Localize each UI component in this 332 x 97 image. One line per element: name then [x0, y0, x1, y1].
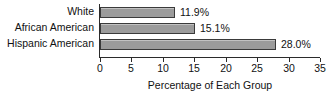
bar-value-hispanic-american: 28.0% [281, 38, 311, 50]
x-tick-label-5: 5 [119, 62, 143, 74]
category-axis-labels: White African American Hispanic American [0, 6, 97, 56]
category-label-african-american: African American [0, 22, 94, 33]
x-tick-label-35: 35 [308, 62, 332, 74]
x-tick-label-25: 25 [245, 62, 269, 74]
x-axis-line [99, 57, 320, 58]
x-tick-label-0: 0 [88, 62, 112, 74]
bar-african-american[interactable] [100, 23, 195, 34]
bar-chart: White African American Hispanic American… [0, 0, 332, 97]
bar-value-african-american: 15.1% [200, 22, 230, 34]
x-tick-label-15: 15 [182, 62, 206, 74]
x-tick-label-20: 20 [214, 62, 238, 74]
bar-white[interactable] [100, 7, 175, 18]
x-axis-title: Percentage of Each Group [100, 79, 320, 91]
bar-hispanic-american[interactable] [100, 39, 276, 50]
x-tick-label-30: 30 [277, 62, 301, 74]
category-label-hispanic-american: Hispanic American [0, 38, 94, 49]
bar-value-white: 11.9% [180, 6, 209, 18]
plot-area: 11.9% 15.1% 28.0% 0 5 10 15 20 25 30 35 [100, 4, 320, 57]
category-label-white: White [0, 6, 94, 17]
x-tick-label-10: 10 [151, 62, 175, 74]
